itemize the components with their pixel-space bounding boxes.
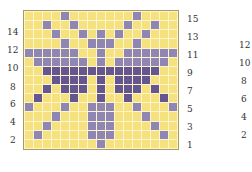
grid-cell (160, 67, 168, 75)
grid-cell (160, 12, 168, 20)
grid-cell (124, 140, 132, 148)
grid-cell (79, 12, 87, 20)
grid-cell (106, 21, 114, 29)
grid-cell (115, 49, 123, 57)
grid-cell (88, 12, 96, 20)
grid-cell (70, 58, 78, 66)
grid-cell (88, 39, 96, 47)
grid-cell (151, 122, 159, 130)
grid-cell (160, 122, 168, 130)
grid-cell (142, 140, 150, 148)
grid-cell (25, 21, 33, 29)
grid-cell (79, 21, 87, 29)
grid-cell (142, 103, 150, 111)
grid-cell (61, 21, 69, 29)
grid-cell (115, 103, 123, 111)
grid-cell (61, 131, 69, 139)
grid-cell (52, 67, 60, 75)
grid-cell (133, 131, 141, 139)
grid-cell (133, 49, 141, 57)
grid-cell (43, 49, 51, 57)
grid-cell (52, 140, 60, 148)
grid-cell (133, 112, 141, 120)
grid-cell (169, 30, 177, 38)
grid-cell (88, 21, 96, 29)
grid-cell (52, 76, 60, 84)
grid-cell (133, 39, 141, 47)
grid-cell (115, 58, 123, 66)
grid-cell (133, 85, 141, 93)
grid-cell (43, 76, 51, 84)
grid-cell (79, 112, 87, 120)
grid-cell (169, 140, 177, 148)
grid-cell (25, 58, 33, 66)
grid-cell (70, 85, 78, 93)
grid-cell (34, 131, 42, 139)
grid-cell (97, 30, 105, 38)
grid-cell (88, 67, 96, 75)
grid-cell (160, 58, 168, 66)
grid-cell (34, 39, 42, 47)
grid-cell (106, 12, 114, 20)
grid-cell (25, 94, 33, 102)
row-label: 5 (187, 104, 193, 114)
grid-cell (34, 58, 42, 66)
grid-cell (142, 12, 150, 20)
grid-cell (169, 49, 177, 57)
grid-cell (169, 103, 177, 111)
grid-cell (160, 39, 168, 47)
grid-cell (79, 140, 87, 148)
grid-cell (106, 140, 114, 148)
grid-cell (97, 94, 105, 102)
grid-cell (79, 67, 87, 75)
grid-cell (97, 39, 105, 47)
grid-cell (106, 49, 114, 57)
grid-cell (151, 12, 159, 20)
grid-cell (61, 112, 69, 120)
grid-cell (43, 140, 51, 148)
grid-cell (169, 39, 177, 47)
row-label: 7 (187, 86, 193, 96)
grid-cell (142, 67, 150, 75)
grid-cell (25, 30, 33, 38)
grid-cell (70, 131, 78, 139)
grid-cell (52, 112, 60, 120)
grid-cell (115, 12, 123, 20)
grid-cell (34, 67, 42, 75)
grid-cell (169, 67, 177, 75)
grid-cell (25, 112, 33, 120)
grid-cell (70, 39, 78, 47)
grid-cell (43, 94, 51, 102)
grid-cell (34, 94, 42, 102)
grid-cell (43, 39, 51, 47)
grid-cell (133, 122, 141, 130)
row-label: 14 (7, 27, 18, 37)
grid-cell (70, 30, 78, 38)
grid-cell (133, 21, 141, 29)
grid-cell (52, 49, 60, 57)
grid-cell (43, 12, 51, 20)
grid-cell (124, 76, 132, 84)
row-label: 4 (10, 117, 16, 127)
grid-cell (25, 39, 33, 47)
grid-cell (25, 122, 33, 130)
row-label: 6 (241, 94, 247, 104)
grid-cell (70, 112, 78, 120)
grid-cell (79, 58, 87, 66)
grid-cell (25, 76, 33, 84)
grid-cell (61, 39, 69, 47)
grid-cell (34, 85, 42, 93)
grid-cell (88, 103, 96, 111)
grid-cell (97, 76, 105, 84)
grid-cell (79, 122, 87, 130)
grid-cell (97, 140, 105, 148)
grid-cell (79, 30, 87, 38)
grid-cell (88, 140, 96, 148)
grid-cell (97, 103, 105, 111)
grid-cell (106, 58, 114, 66)
row-label: 10 (7, 63, 18, 73)
grid-cell (169, 94, 177, 102)
grid-cell (79, 76, 87, 84)
grid-cell (52, 21, 60, 29)
grid-cell (106, 112, 114, 120)
